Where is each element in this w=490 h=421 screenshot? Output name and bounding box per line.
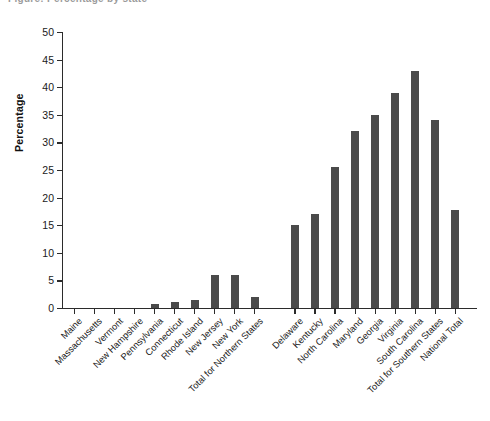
x-tick-mark xyxy=(74,309,75,314)
bar xyxy=(351,131,359,308)
y-tick-label: 30 xyxy=(30,136,54,148)
bar xyxy=(411,71,419,308)
y-tick-label: 40 xyxy=(30,81,54,93)
plot-area: 05101520253035404550 xyxy=(62,32,477,308)
y-tick-label: 50 xyxy=(30,26,54,38)
chart-title-clipped: Figure: Percentage by state xyxy=(8,0,308,5)
y-tick-label: 0 xyxy=(30,302,54,314)
bar xyxy=(331,167,339,308)
y-tick-label: 5 xyxy=(30,274,54,286)
x-tick-mark xyxy=(294,309,295,314)
y-tick-label: 10 xyxy=(30,247,54,259)
y-axis-label: Percentage xyxy=(13,93,25,152)
y-tick-label: 20 xyxy=(30,192,54,204)
bars-layer xyxy=(62,32,477,308)
bar xyxy=(391,93,399,308)
y-tick-label: 25 xyxy=(30,164,54,176)
bar-chart: Figure: Percentage by state Percentage 0… xyxy=(0,0,490,421)
y-tick-mark xyxy=(57,308,62,309)
y-tick-label: 15 xyxy=(30,219,54,231)
y-tick-label: 45 xyxy=(30,54,54,66)
y-tick-label: 35 xyxy=(30,109,54,121)
bar xyxy=(431,120,439,308)
